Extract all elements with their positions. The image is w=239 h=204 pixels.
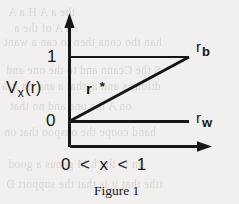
figure-caption: Figure 1 <box>94 183 139 199</box>
range-left-value: 0 <box>61 155 71 174</box>
upper-line-label: rb <box>196 39 210 58</box>
y-axis-arrowhead <box>64 13 74 28</box>
x-axis-arrowhead <box>197 141 212 152</box>
range-variable: x <box>99 155 108 174</box>
y-axis-label: Vx(r) <box>6 79 41 99</box>
horizontal-axis <box>70 141 213 152</box>
x-axis-range-label: 0<x<1 <box>61 156 147 173</box>
figure-container: the a A H a A on A of the a han tho cona… <box>0 0 239 204</box>
rb-label-subscript: b <box>201 44 210 59</box>
rw-label-subscript: w <box>201 115 212 130</box>
range-right-operator: < <box>117 155 127 174</box>
y-tick-label-top: 1 <box>47 48 56 65</box>
y-axis-label-base: V <box>6 78 17 97</box>
range-right-value: 1 <box>137 155 147 174</box>
diagonal-line-label: r* <box>86 81 106 96</box>
y-axis-label-argument: (r) <box>24 79 41 96</box>
y-tick-label-bottom: 0 <box>46 112 55 129</box>
diagonal-label-base: r <box>86 80 93 97</box>
range-left-operator: < <box>80 155 90 174</box>
vertical-axis <box>64 13 74 147</box>
asterisk-icon: * <box>93 79 106 94</box>
lower-line-label: rw <box>196 110 212 129</box>
